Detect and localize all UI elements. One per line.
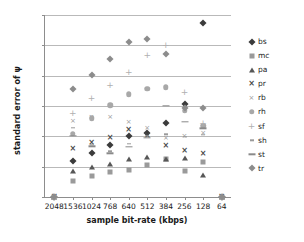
legend-item-rh[interactable]: rh — [246, 106, 269, 117]
data-point — [162, 105, 169, 106]
data-point — [69, 135, 76, 136]
data-point — [89, 165, 95, 170]
x-axis-title: sample bit-rate (kbps) — [44, 216, 230, 225]
data-point — [201, 134, 205, 135]
x-tick-mark — [73, 197, 74, 200]
data-point: × — [163, 134, 169, 141]
data-point — [107, 141, 114, 148]
data-point: + — [125, 67, 133, 76]
data-point: + — [144, 50, 152, 59]
legend-label: st — [258, 150, 265, 159]
legend-item-pr[interactable]: ×pr — [246, 78, 269, 89]
chart-figure: standard error of ψ 00,020,040,060,080,1… — [0, 0, 304, 242]
data-point — [181, 121, 188, 122]
legend-marker-rh-icon — [246, 106, 257, 117]
data-point — [89, 174, 94, 179]
data-point — [126, 167, 131, 172]
data-point — [107, 55, 114, 62]
data-point — [144, 36, 151, 43]
data-point — [183, 136, 187, 137]
gridline — [45, 15, 231, 16]
gridline — [45, 136, 231, 137]
data-point: + — [162, 41, 170, 50]
data-point — [126, 157, 132, 162]
data-point: × — [144, 124, 150, 131]
legend-item-rb[interactable]: ×rb — [246, 92, 269, 103]
data-point — [89, 116, 95, 122]
x-tick-mark — [129, 197, 130, 200]
legend-label: rh — [258, 107, 266, 116]
x-tick-mark — [185, 197, 186, 200]
data-point: + — [88, 93, 96, 102]
legend-item-st[interactable]: st — [246, 149, 269, 160]
data-point — [108, 169, 113, 174]
data-point — [126, 92, 132, 98]
data-point: + — [106, 81, 114, 90]
legend-label: rb — [258, 93, 266, 102]
legend-item-bs[interactable]: bs — [246, 36, 269, 47]
legend-marker-sf-icon: + — [246, 121, 257, 132]
gridline — [45, 45, 231, 46]
legend-marker-st-icon — [246, 149, 257, 160]
data-point: × — [107, 113, 113, 120]
legend-item-mc[interactable]: mc — [246, 50, 269, 61]
y-axis-title-text: standard error of ψ — [13, 66, 22, 155]
data-point: × — [126, 119, 132, 126]
chart-legend: bsmcpa×pr×rbrh+sfshsttr — [246, 36, 269, 174]
legend-label: pa — [258, 65, 267, 74]
data-point — [107, 153, 114, 154]
data-point: × — [107, 134, 114, 142]
legend-marker-rb-icon: × — [246, 92, 257, 103]
data-point — [162, 51, 169, 58]
data-point — [200, 128, 207, 129]
y-tick-mark — [42, 106, 45, 107]
x-tick-mark — [166, 197, 167, 200]
legend-marker-bs-icon — [246, 36, 257, 47]
legend-item-sf[interactable]: +sf — [246, 121, 269, 132]
data-point — [125, 38, 132, 45]
legend-marker-pa-icon — [246, 64, 257, 75]
data-point: × — [70, 117, 76, 124]
legend-label: bs — [258, 37, 267, 46]
y-tick-mark — [42, 15, 45, 16]
legend-label: sf — [258, 122, 265, 131]
data-point: × — [181, 147, 188, 155]
y-tick-mark — [42, 76, 45, 77]
data-point — [145, 162, 150, 167]
data-point — [125, 146, 132, 147]
data-point — [71, 127, 75, 128]
legend-item-sh[interactable]: sh — [246, 135, 269, 146]
data-point — [69, 86, 76, 93]
data-point: + — [69, 109, 77, 118]
y-tick-mark — [42, 167, 45, 168]
data-point — [69, 158, 76, 165]
legend-marker-sh-icon — [246, 135, 257, 146]
data-point: × — [70, 145, 77, 153]
data-point — [107, 162, 113, 167]
x-tick-mark — [147, 197, 148, 200]
data-point — [200, 172, 206, 177]
y-tick-mark — [42, 197, 45, 198]
legend-label: tr — [258, 164, 264, 173]
data-point: × — [125, 126, 132, 134]
x-tick-mark — [110, 197, 111, 200]
plot-area: 00,020,040,060,080,10,122048153610247686… — [44, 15, 230, 197]
legend-item-tr[interactable]: tr — [246, 163, 269, 174]
legend-marker-tr-icon — [246, 163, 257, 174]
x-tick-mark — [92, 197, 93, 200]
legend-item-pa[interactable]: pa — [246, 64, 269, 75]
legend-marker-mc-icon — [246, 50, 257, 61]
data-point — [163, 156, 169, 161]
data-point — [201, 160, 206, 165]
x-tick-label: 64 — [202, 202, 242, 211]
data-point — [107, 103, 113, 109]
legend-label: mc — [258, 51, 269, 60]
data-point — [144, 155, 150, 160]
data-point — [182, 168, 187, 173]
data-point — [127, 143, 131, 144]
data-point — [164, 134, 168, 135]
data-point: + — [181, 88, 189, 97]
data-point — [162, 120, 169, 127]
data-point — [70, 178, 75, 183]
legend-marker-pr-icon: × — [246, 78, 257, 89]
